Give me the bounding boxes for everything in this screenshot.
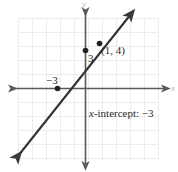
point-label-one-four: (1, 4) xyxy=(101,45,125,56)
coordinate-graph-figure: y x (1, 4) 3 −3 x-intercept: −3 xyxy=(0,0,178,172)
y-intercept-tick-label: 3 xyxy=(88,53,94,64)
x-intercept-annotation: x-intercept: −3 xyxy=(89,108,154,119)
x-axis-label: x xyxy=(171,84,175,93)
x-intercept-tick-label: −3 xyxy=(46,75,58,86)
point-x-intercept xyxy=(55,86,61,92)
annotation-text: -intercept: −3 xyxy=(94,107,154,119)
y-axis-label: y xyxy=(82,0,86,9)
graph-canvas xyxy=(0,0,178,172)
